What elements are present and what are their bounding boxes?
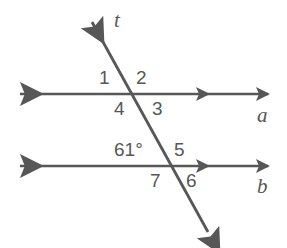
angle-label-1: 1 <box>99 68 110 87</box>
line-t-segment <box>92 22 208 232</box>
angle-label-4: 4 <box>114 99 125 118</box>
angle-label-6: 6 <box>186 171 197 190</box>
line-t-transversal <box>92 22 208 232</box>
angle-label-3: 3 <box>152 99 163 118</box>
label-line-b: b <box>257 176 268 197</box>
line-b <box>20 159 270 173</box>
angle-label-61-degrees: 61° <box>114 140 143 159</box>
angle-label-7: 7 <box>150 171 161 190</box>
angle-label-5: 5 <box>174 140 185 159</box>
geometry-diagram-canvas <box>0 0 287 248</box>
angle-label-2: 2 <box>136 68 147 87</box>
label-line-a: a <box>257 105 268 126</box>
line-a <box>20 87 270 101</box>
label-line-t: t <box>114 10 120 31</box>
geometry-figure: t a b 1 2 4 3 61° 5 7 6 <box>0 0 287 248</box>
